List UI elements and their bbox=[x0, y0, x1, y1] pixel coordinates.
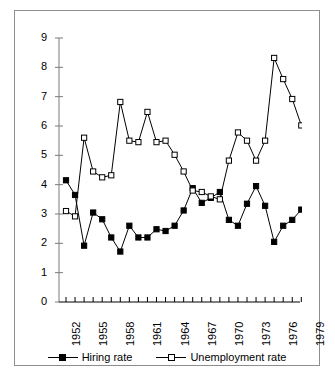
caption-fragment bbox=[40, 370, 300, 381]
x-axis-tick-label: 1976 bbox=[287, 322, 299, 346]
y-axis-tick-label: 9 bbox=[33, 31, 47, 43]
y-axis-tick-label: 8 bbox=[33, 60, 47, 72]
x-axis-tick-label: 1961 bbox=[151, 322, 163, 346]
legend-entry-unemployment-rate: Unemployment rate bbox=[156, 352, 286, 363]
chart-legend: Hiring rate Unemployment rate bbox=[41, 348, 293, 366]
x-axis-tick-label: 1979 bbox=[314, 322, 326, 346]
open-square-icon bbox=[168, 354, 175, 361]
y-axis-tick-label: 6 bbox=[33, 119, 47, 131]
legend-entry-hiring-rate: Hiring rate bbox=[48, 352, 133, 363]
legend-label-unemployment-rate: Unemployment rate bbox=[190, 352, 286, 363]
legend-line-hiring-rate bbox=[48, 353, 78, 362]
y-axis-tick-label: 2 bbox=[33, 236, 47, 248]
y-axis-tick-label: 7 bbox=[33, 90, 47, 102]
line-chart bbox=[47, 27, 302, 303]
x-axis-tick-label: 1967 bbox=[206, 322, 218, 346]
x-axis-tick-label: 1952 bbox=[70, 322, 82, 346]
data-series bbox=[63, 55, 302, 254]
y-axis-tick-label: 1 bbox=[33, 266, 47, 278]
filled-square-icon bbox=[59, 354, 66, 361]
plot-area bbox=[47, 27, 302, 303]
legend-line-unemployment-rate bbox=[156, 353, 186, 362]
x-axis-tick-label: 1958 bbox=[124, 322, 136, 346]
x-axis-tick-labels: 1952195519581961196419671970197319761979 bbox=[47, 306, 302, 351]
y-axis-tick-label: 0 bbox=[33, 295, 47, 307]
x-axis-tick-label: 1970 bbox=[233, 322, 245, 346]
x-axis-tick-label: 1964 bbox=[179, 322, 191, 346]
y-axis-tick-label: 5 bbox=[33, 148, 47, 160]
y-axis-tick-label: 3 bbox=[33, 207, 47, 219]
x-axis-tick-label: 1955 bbox=[97, 322, 109, 346]
chart-figure: 0123456789 19521955195819611964196719701… bbox=[14, 10, 320, 366]
legend-label-hiring-rate: Hiring rate bbox=[82, 352, 133, 363]
y-axis-tick-label: 4 bbox=[33, 178, 47, 190]
x-axis-tick-label: 1973 bbox=[260, 322, 272, 346]
